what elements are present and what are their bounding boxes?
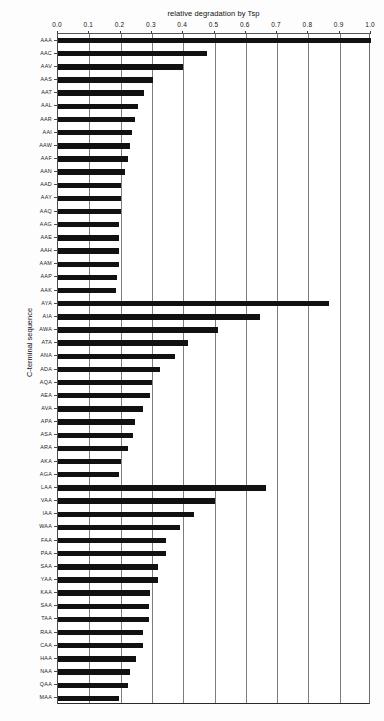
y-tick-label: SAA xyxy=(40,602,52,608)
y-tick-label: TAA xyxy=(41,615,52,621)
bar xyxy=(58,51,207,56)
bar xyxy=(58,643,143,648)
bar xyxy=(58,630,143,635)
bar xyxy=(58,354,175,359)
bar-row xyxy=(58,312,371,322)
y-tick-label: ASA xyxy=(40,431,52,437)
x-axis-top: 0.00.10.20.30.40.50.60.70.80.91.0 xyxy=(0,21,384,33)
y-tick-label: NAA xyxy=(40,668,52,674)
y-tick-label: RAA xyxy=(40,629,52,635)
bar-row xyxy=(58,351,371,361)
bar-row xyxy=(58,601,371,611)
bar xyxy=(58,262,119,267)
y-tick-label: PAA xyxy=(41,550,52,556)
bar xyxy=(58,564,158,569)
y-tick-label: AKA xyxy=(40,458,52,464)
bar-row xyxy=(58,417,371,427)
bar xyxy=(58,77,153,82)
bar-row xyxy=(58,285,371,295)
y-tick-label: AAP xyxy=(40,273,52,279)
bar xyxy=(58,525,180,530)
y-tick-label: AAF xyxy=(41,155,52,161)
x-tick-mark xyxy=(370,31,371,34)
bar-row xyxy=(58,667,371,677)
y-tick-label: AAR xyxy=(40,116,52,122)
y-tick-label: KAA xyxy=(40,589,52,595)
y-tick-label: ATA xyxy=(42,339,52,345)
bar xyxy=(58,169,125,174)
x-tick-label: 0.6 xyxy=(240,21,250,28)
bar xyxy=(58,235,119,240)
bar-row xyxy=(58,456,371,466)
y-tick-label: AAK xyxy=(40,287,52,293)
y-tick-label: AAL xyxy=(41,102,52,108)
bar-row xyxy=(58,220,371,230)
bar-row xyxy=(58,246,371,256)
y-tick-label: AAE xyxy=(40,234,52,240)
bar-row xyxy=(58,443,371,453)
x-tick-label: 0.2 xyxy=(115,21,125,28)
bar-row xyxy=(58,391,371,401)
y-tick-label: AIA xyxy=(43,313,52,319)
bar xyxy=(58,669,130,674)
y-tick-label: QAA xyxy=(40,681,52,687)
bar xyxy=(58,617,149,622)
y-tick-label: AAH xyxy=(40,247,52,253)
y-tick-label: ARA xyxy=(40,444,52,450)
bar xyxy=(58,327,218,332)
bar xyxy=(58,183,121,188)
bar-row xyxy=(58,483,371,493)
x-tick-label: 0.5 xyxy=(209,21,219,28)
y-tick-label: ADA xyxy=(40,366,52,372)
bar xyxy=(58,38,371,43)
bar-row xyxy=(58,693,371,703)
bar-row xyxy=(58,114,371,124)
bar-row xyxy=(58,549,371,559)
bar xyxy=(58,367,160,372)
bar-row xyxy=(58,128,371,138)
bar xyxy=(58,485,266,490)
y-tick-label: WAA xyxy=(39,523,52,529)
bar-row xyxy=(58,641,371,651)
bar-series xyxy=(58,34,369,703)
bar-row xyxy=(58,325,371,335)
y-tick-label: AAN xyxy=(40,168,52,174)
bar-row xyxy=(58,680,371,690)
x-tick-label: 0.8 xyxy=(303,21,313,28)
bar-row xyxy=(58,338,371,348)
bar-row xyxy=(58,364,371,374)
bar xyxy=(58,301,329,306)
bar xyxy=(58,130,132,135)
bar-row xyxy=(58,272,371,282)
bar-row xyxy=(58,180,371,190)
x-tick-label: 0.7 xyxy=(271,21,281,28)
bar xyxy=(58,275,117,280)
bar-row xyxy=(58,628,371,638)
bar xyxy=(58,433,133,438)
y-tick-label: AGA xyxy=(40,471,52,477)
bar xyxy=(58,64,183,69)
y-tick-label: AAS xyxy=(40,76,52,82)
y-tick-label: AEA xyxy=(40,392,52,398)
bar xyxy=(58,90,144,95)
y-axis-tick-labels: AAAAACAAVAASAATAALAARAAIAAWAAFAANAADAAYA… xyxy=(0,33,57,704)
y-tick-label: HAA xyxy=(40,655,52,661)
bar-row xyxy=(58,575,371,585)
bar xyxy=(58,604,149,609)
bar-row xyxy=(58,233,371,243)
bar-row xyxy=(58,101,371,111)
y-tick-label: AAY xyxy=(41,194,52,200)
y-tick-label: AYA xyxy=(41,300,52,306)
y-tick-label: AAM xyxy=(40,260,52,266)
x-tick-label: 0.1 xyxy=(83,21,93,28)
y-tick-label: YAA xyxy=(41,576,52,582)
y-tick-label: IAA xyxy=(43,510,52,516)
bar xyxy=(58,248,119,253)
bar-row xyxy=(58,154,371,164)
bar-row xyxy=(58,259,371,269)
bar-row xyxy=(58,522,371,532)
bar xyxy=(58,512,194,517)
y-tick-label: AVA xyxy=(41,405,52,411)
bar xyxy=(58,538,166,543)
y-tick-label: AAC xyxy=(40,50,52,56)
